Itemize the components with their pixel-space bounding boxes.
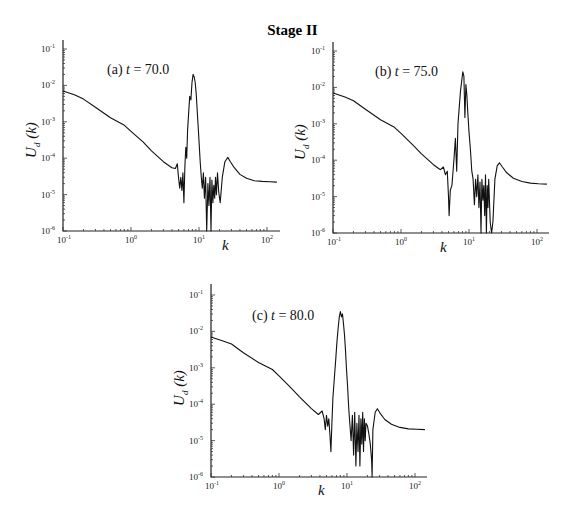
spectrum-curve	[211, 312, 425, 477]
panel-annotation: (c) t = 80.0	[252, 308, 314, 324]
y-tick-label: 10-3	[189, 362, 203, 373]
chart-panel-c: 10-110010110210-610-510-410-310-210-1kUd…	[0, 0, 577, 508]
x-axis-title: k	[318, 482, 325, 498]
y-tick-label: 10-2	[189, 325, 203, 336]
y-tick-label: 10-1	[189, 289, 203, 300]
x-tick-label: 102	[409, 480, 421, 491]
axis-lines	[211, 284, 427, 477]
y-axis-title: Ud (k)	[171, 370, 190, 406]
x-tick-label: 100	[273, 480, 285, 491]
x-tick-label: 101	[341, 480, 353, 491]
y-tick-label: 10-6	[189, 471, 203, 482]
x-tick-label: 10-1	[205, 480, 219, 491]
y-tick-label: 10-4	[189, 398, 203, 409]
y-tick-label: 10-5	[189, 435, 203, 446]
